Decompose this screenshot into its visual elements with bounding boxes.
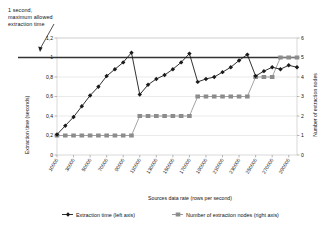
x-axis-tick-label: 110000 — [128, 157, 142, 174]
x-axis-tick-label: 170000 — [178, 157, 192, 175]
data-point-marker — [137, 114, 142, 118]
data-point-marker — [295, 56, 300, 60]
data-point-marker — [129, 134, 134, 138]
data-point-marker — [162, 114, 167, 118]
data-point-marker — [146, 114, 151, 118]
data-point-marker — [121, 134, 126, 138]
data-point-marker — [195, 95, 200, 99]
y-axis-left-title: Extraction time (seconds) — [24, 95, 30, 154]
data-point-marker — [104, 134, 109, 138]
y-axis-left-tick-label: 0,2 — [46, 132, 53, 138]
x-axis-tick-label: 70000 — [97, 157, 110, 172]
y-axis-right-title: Number of extraction nodes — [312, 73, 318, 137]
x-axis-tick-label: 150000 — [161, 157, 175, 175]
x-axis-tick-label: 130000 — [145, 157, 159, 175]
data-point-marker — [179, 114, 184, 118]
y-axis-right-ticks: 0123456 — [297, 35, 304, 158]
y-axis-right-tick-label: 3 — [301, 93, 304, 99]
x-axis-tick-label: 230000 — [227, 157, 241, 175]
legend-marker — [66, 212, 70, 216]
x-axis-tick-label: 190000 — [194, 157, 208, 175]
y-axis-right-tick-label: 5 — [301, 54, 304, 60]
chart-figure: 1 second, maximum allowed extraction tim… — [0, 0, 327, 233]
data-point-marker — [187, 114, 192, 118]
data-point-marker — [171, 114, 176, 118]
legend-item: Extraction time (left axis) — [62, 212, 135, 218]
y-axis-right-tick-label: 6 — [301, 35, 304, 41]
y-axis-left-tick-label: 1,2 — [46, 35, 53, 41]
y-axis-left-tick-label: 0,4 — [46, 113, 53, 119]
data-point-marker — [228, 95, 233, 99]
legend-label: Number of extraction nodes (right axis) — [186, 212, 279, 218]
x-axis-tick-label: 290000 — [277, 157, 291, 175]
data-point-marker — [245, 95, 250, 99]
y-axis-right-tick-label: 2 — [301, 113, 304, 119]
x-axis-tick-label: 270000 — [261, 157, 275, 175]
data-point-marker — [154, 114, 159, 118]
x-axis-tick-label: 30000 — [63, 157, 76, 172]
data-point-marker — [270, 75, 275, 79]
data-point-marker — [96, 134, 101, 138]
legend-marker — [176, 213, 181, 217]
x-axis-tick-label: 10000 — [47, 157, 60, 172]
y-axis-left-tick-label: 0,8 — [46, 74, 53, 80]
y-axis-left-ticks: 00,20,40,60,811,2 — [46, 35, 57, 158]
x-axis-tick-label: 250000 — [244, 157, 258, 175]
x-axis-ticks: 1000030000500007000090000110000130000150… — [47, 155, 291, 175]
chart-canvas: 00,20,40,60,811,2 0123456 10000300005000… — [0, 0, 327, 233]
data-point-marker — [88, 134, 93, 138]
y-axis-right-tick-label: 4 — [301, 74, 304, 80]
data-point-marker — [71, 134, 76, 138]
data-point-marker — [262, 75, 267, 79]
x-axis-tick-label: 50000 — [80, 157, 93, 172]
chart-legend: Extraction time (left axis)Number of ext… — [62, 212, 279, 218]
x-axis-tick-label: 210000 — [211, 157, 225, 175]
data-point-marker — [278, 56, 283, 60]
legend-label: Extraction time (left axis) — [76, 212, 135, 218]
x-axis-tick-label: 90000 — [113, 157, 126, 172]
data-point-marker — [63, 134, 68, 138]
y-axis-right-tick-label: 1 — [301, 132, 304, 138]
x-axis-title: Sources data rate (rows per second) — [148, 195, 232, 201]
y-axis-left-tick-label: 0 — [50, 152, 53, 158]
data-point-marker — [113, 134, 118, 138]
y-axis-right-tick-label: 0 — [301, 152, 304, 158]
data-point-marker — [286, 56, 291, 60]
data-point-marker — [204, 95, 209, 99]
data-point-marker — [220, 95, 225, 99]
data-point-marker — [237, 95, 242, 99]
legend-item: Number of extraction nodes (right axis) — [172, 212, 279, 218]
y-axis-left-tick-label: 0,6 — [46, 93, 53, 99]
data-point-marker — [212, 95, 217, 99]
data-point-marker — [80, 134, 85, 138]
